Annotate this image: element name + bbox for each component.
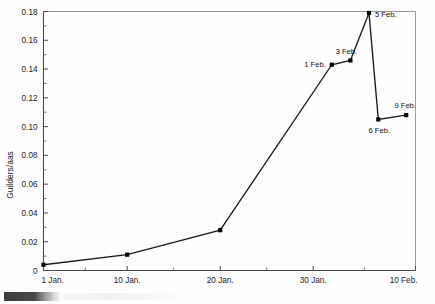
data-point-marker <box>367 11 371 15</box>
y-tick-label: 0.16 <box>22 36 38 45</box>
data-point-label: 6 Feb. <box>369 126 391 135</box>
x-axis-ticks: 1 Jan.10 Jan.20 Jan.30 Jan.10 Feb. <box>42 266 418 285</box>
x-tick-label: 10 Feb. <box>390 276 418 285</box>
data-point-marker <box>41 263 45 267</box>
y-tick-label: 0.12 <box>22 94 38 103</box>
y-tick-label: 0.08 <box>22 151 38 160</box>
y-tick-label: 0.02 <box>22 238 38 247</box>
plot-frame <box>44 12 416 271</box>
y-tick-label: 0.14 <box>22 65 38 74</box>
y-tick-label: 0.04 <box>22 209 38 218</box>
data-point-marker <box>348 58 352 62</box>
y-tick-label: 0.10 <box>22 123 38 132</box>
data-point-marker <box>376 117 380 121</box>
x-tick-label: 10 Jan. <box>114 276 141 285</box>
data-point-marker <box>404 113 408 117</box>
data-point-label: 9 Feb. <box>394 101 416 110</box>
x-tick-label: 1 Jan. <box>42 276 64 285</box>
line-chart: 00.020.040.060.080.100.120.140.160.18 1 … <box>0 0 435 304</box>
cropped-caption-bar <box>4 292 60 301</box>
y-tick-label: 0.18 <box>22 8 38 17</box>
data-point-label: 1 Feb. <box>304 60 326 69</box>
data-point-marker <box>125 253 129 257</box>
chart-figure: 00.020.040.060.080.100.120.140.160.18 1 … <box>0 0 435 304</box>
x-tick-label: 30 Jan. <box>300 276 327 285</box>
cropped-caption-text-ghost <box>62 293 182 300</box>
y-tick-label: 0 <box>33 267 38 276</box>
x-tick-label: 20 Jan. <box>207 276 234 285</box>
y-tick-label: 0.06 <box>22 180 38 189</box>
data-point-marker <box>218 228 222 232</box>
data-point-label: 5 Feb. <box>375 10 397 19</box>
data-point-label: 3 Feb. <box>336 47 358 56</box>
data-point-marker <box>330 63 334 67</box>
y-axis-title: Guilders/aas <box>5 151 15 199</box>
